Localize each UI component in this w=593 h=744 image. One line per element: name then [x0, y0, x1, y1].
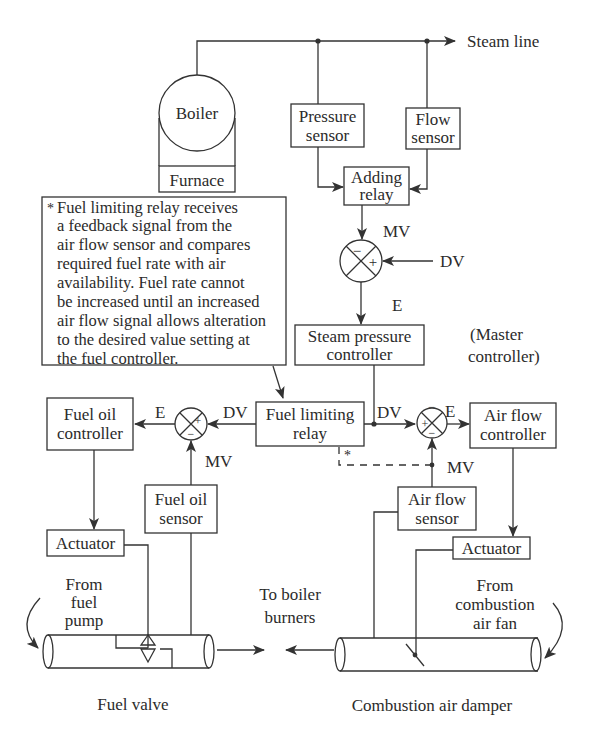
svg-text:availability. Fuel rate cannot: availability. Fuel rate cannot: [57, 273, 245, 292]
svg-text:relay: relay: [293, 424, 327, 443]
valve-icon: [141, 649, 155, 662]
svg-text:Air flow: Air flow: [408, 490, 467, 509]
svg-text:pump: pump: [65, 611, 104, 630]
summing-junction-air: − + −: [417, 400, 447, 440]
svg-text:−: −: [188, 427, 195, 441]
svg-text:sensor: sensor: [411, 128, 455, 147]
summing-junction-fuel: + −: [175, 408, 207, 441]
svg-text:MV: MV: [447, 458, 475, 477]
air-flow-controller-box: Air flow controller: [470, 403, 556, 448]
svg-text:−: −: [353, 243, 361, 259]
svg-text:E: E: [155, 403, 165, 422]
actuator-left-box: Actuator: [47, 530, 124, 556]
air-duct: [335, 638, 541, 671]
master-controller-label: (Master: [470, 325, 523, 344]
svg-text:sensor: sensor: [415, 509, 459, 528]
steam-line-label: Steam line: [467, 32, 539, 51]
svg-text:the fuel controller.: the fuel controller.: [57, 349, 178, 368]
svg-text:burners: burners: [265, 608, 316, 627]
steam-pressure-controller-box: Steam pressure controller: [295, 325, 424, 365]
svg-text:Fuel oil: Fuel oil: [64, 405, 117, 424]
fuel-oil-controller-box: Fuel oil controller: [47, 398, 133, 450]
svg-text:relay: relay: [360, 185, 394, 204]
fuel-valve-label: Fuel valve: [97, 695, 168, 714]
flow-sensor-box: Flow sensor: [406, 108, 460, 149]
air-flow-sensor-box: Air flow sensor: [398, 487, 476, 530]
to-boiler-burners-label: To boiler: [259, 585, 321, 604]
svg-text:DV: DV: [223, 403, 248, 422]
svg-text:Fuel limiting: Fuel limiting: [266, 405, 355, 424]
svg-text:From: From: [477, 576, 514, 595]
svg-text:Fuel oil: Fuel oil: [155, 490, 208, 509]
svg-text:Steam pressure: Steam pressure: [308, 327, 411, 346]
mv-label: MV: [383, 222, 411, 241]
svg-text:a feedback signal from the: a feedback signal from the: [57, 216, 232, 235]
boiler: Boiler: [159, 75, 235, 166]
boiler-control-diagram: Steam line Boiler Furnace Pressure senso…: [0, 0, 593, 744]
svg-text:+: +: [369, 254, 377, 270]
svg-text:−: −: [429, 426, 436, 440]
svg-text:fuel: fuel: [71, 593, 98, 612]
svg-text:Air flow: Air flow: [484, 406, 543, 425]
svg-text:MV: MV: [205, 452, 233, 471]
svg-text:air flow sensor and compares: air flow sensor and compares: [57, 235, 250, 254]
svg-text:Actuator: Actuator: [462, 539, 522, 558]
furnace-box: Furnace: [159, 166, 235, 192]
svg-text:+: +: [195, 414, 202, 428]
svg-text:E: E: [445, 402, 455, 421]
e-label: E: [392, 296, 402, 315]
svg-text:*: *: [344, 448, 351, 463]
fuel-oil-sensor-box: Fuel oil sensor: [145, 485, 217, 533]
svg-text:air fan: air fan: [473, 614, 517, 633]
svg-text:air flow signal allows alterat: air flow signal allows alteration: [57, 311, 266, 330]
svg-text:sensor: sensor: [159, 509, 203, 528]
svg-text:Pressure: Pressure: [299, 107, 357, 126]
svg-text:required fuel rate with air: required fuel rate with air: [57, 254, 226, 273]
svg-text:Actuator: Actuator: [56, 534, 116, 553]
dv-label: DV: [440, 252, 465, 271]
note-asterisk: *: [47, 201, 54, 216]
svg-text:Flow: Flow: [416, 110, 452, 129]
fuel-limiting-relay-box: Fuel limiting relay: [256, 402, 364, 446]
svg-text:From: From: [66, 575, 103, 594]
boiler-label: Boiler: [176, 104, 219, 123]
svg-text:combustion: combustion: [455, 595, 535, 614]
svg-text:−: −: [429, 400, 436, 414]
svg-text:Fuel limiting relay receives: Fuel limiting relay receives: [57, 198, 238, 217]
svg-text:controller: controller: [57, 424, 123, 443]
svg-text:to the desired value setting a: to the desired value setting at: [57, 330, 250, 349]
adding-relay-box: Adding relay: [344, 167, 409, 205]
svg-text:DV: DV: [377, 403, 402, 422]
note-box: * Fuel limiting relay receives a feedbac…: [42, 197, 286, 368]
svg-text:controller): controller): [468, 347, 540, 366]
summing-junction-master: − +: [340, 240, 382, 282]
svg-text:be increased until an increase: be increased until an increased: [57, 292, 260, 311]
actuator-right-box: Actuator: [453, 537, 530, 559]
steam-line: Steam line: [197, 32, 539, 75]
combustion-air-damper-label: Combustion air damper: [352, 696, 513, 715]
svg-text:controller: controller: [480, 425, 546, 444]
furnace-label: Furnace: [170, 171, 225, 190]
svg-text:+: +: [422, 417, 429, 431]
pressure-sensor-box: Pressure sensor: [291, 104, 364, 147]
svg-text:controller: controller: [326, 345, 392, 364]
fuel-pipe: [43, 635, 214, 668]
svg-text:sensor: sensor: [306, 126, 350, 145]
